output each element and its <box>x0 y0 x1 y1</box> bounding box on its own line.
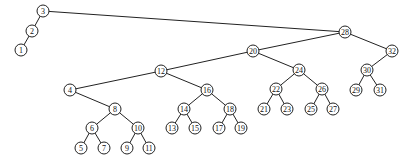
tree-node-16: 16 <box>201 84 213 96</box>
tree-node-12: 12 <box>155 65 167 77</box>
tree-node-11: 11 <box>143 142 155 154</box>
node-label: 6 <box>90 124 94 133</box>
tree-node-5: 5 <box>75 142 87 154</box>
node-label: 20 <box>249 47 257 56</box>
node-label: 28 <box>341 28 349 37</box>
tree-node-28: 28 <box>339 26 351 38</box>
node-label: 31 <box>376 86 384 95</box>
tree-node-26: 26 <box>316 83 328 95</box>
tree-node-2: 2 <box>26 25 38 37</box>
binary-tree-diagram: 3212820323029311224222621232527416814186… <box>0 0 412 164</box>
edge-12-4 <box>70 71 161 90</box>
node-label: 8 <box>113 105 117 114</box>
tree-node-18: 18 <box>224 103 236 115</box>
tree-node-3: 3 <box>37 5 49 17</box>
node-label: 29 <box>352 86 360 95</box>
node-label: 26 <box>318 85 326 94</box>
tree-node-8: 8 <box>109 103 121 115</box>
node-label: 32 <box>388 47 396 56</box>
node-label: 13 <box>168 124 176 133</box>
tree-node-27: 27 <box>327 103 339 115</box>
node-label: 16 <box>203 86 211 95</box>
tree-node-29: 29 <box>350 84 362 96</box>
tree-node-17: 17 <box>213 122 225 134</box>
node-label: 2 <box>30 27 34 36</box>
node-label: 10 <box>134 124 142 133</box>
tree-node-1: 1 <box>15 44 27 56</box>
node-label: 11 <box>145 144 153 153</box>
tree-node-32: 32 <box>386 45 398 57</box>
edge-4-8 <box>70 90 115 109</box>
node-label: 7 <box>102 144 106 153</box>
tree-node-25: 25 <box>305 103 317 115</box>
edge-28-32 <box>345 32 392 51</box>
tree-node-24: 24 <box>293 64 305 76</box>
tree-node-21: 21 <box>258 103 270 115</box>
tree-node-13: 13 <box>166 122 178 134</box>
node-label: 3 <box>41 7 45 16</box>
tree-node-19: 19 <box>235 122 247 134</box>
edge-20-12 <box>161 51 253 71</box>
tree-node-23: 23 <box>281 103 293 115</box>
node-label: 27 <box>329 105 337 114</box>
node-label: 9 <box>125 144 129 153</box>
edge-12-16 <box>161 71 207 90</box>
node-label: 23 <box>283 105 291 114</box>
node-label: 18 <box>226 105 234 114</box>
tree-node-30: 30 <box>361 64 373 76</box>
tree-node-22: 22 <box>270 83 282 95</box>
tree-nodes: 3212820323029311224222621232527416814186… <box>15 5 398 154</box>
edge-3-28 <box>43 11 345 32</box>
tree-node-7: 7 <box>98 142 110 154</box>
tree-node-31: 31 <box>374 84 386 96</box>
node-label: 4 <box>68 86 72 95</box>
tree-edges <box>21 11 392 148</box>
node-label: 1 <box>19 46 23 55</box>
node-label: 25 <box>307 105 315 114</box>
tree-node-4: 4 <box>64 84 76 96</box>
node-label: 5 <box>79 144 83 153</box>
edge-20-24 <box>253 51 299 70</box>
node-label: 21 <box>260 105 268 114</box>
tree-node-6: 6 <box>86 122 98 134</box>
node-label: 17 <box>215 124 223 133</box>
node-label: 19 <box>237 124 245 133</box>
node-label: 15 <box>191 124 199 133</box>
tree-node-20: 20 <box>247 45 259 57</box>
edge-28-20 <box>253 32 345 51</box>
tree-node-10: 10 <box>132 122 144 134</box>
tree-node-9: 9 <box>121 142 133 154</box>
tree-node-15: 15 <box>189 122 201 134</box>
tree-node-14: 14 <box>178 103 190 115</box>
node-label: 12 <box>157 67 165 76</box>
node-label: 30 <box>363 66 371 75</box>
node-label: 14 <box>180 105 188 114</box>
node-label: 24 <box>295 66 303 75</box>
node-label: 22 <box>272 85 280 94</box>
